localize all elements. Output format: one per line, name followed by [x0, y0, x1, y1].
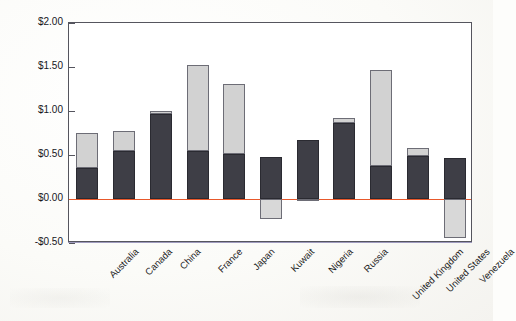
bar-group[interactable] [76, 23, 98, 241]
plot-inner: $2.00$1.50$1.00$0.50$0.00-$0.50 [69, 23, 471, 241]
y-tick-label: $1.00 [38, 104, 63, 115]
bar-segment-tax[interactable] [333, 118, 355, 123]
bar-group[interactable] [260, 23, 282, 241]
bar-segment-base[interactable] [150, 114, 172, 199]
y-tick-label: $0.00 [38, 192, 63, 203]
y-tick-mark [69, 243, 75, 244]
bar-segment-base[interactable] [444, 158, 466, 199]
y-tick-mark [69, 67, 75, 68]
plot-area: $2.00$1.50$1.00$0.50$0.00-$0.50 [68, 22, 472, 242]
bottom-rule [68, 242, 472, 243]
x-axis-label: Japan [251, 246, 277, 272]
bar-group[interactable] [297, 23, 319, 241]
bar-segment-base[interactable] [297, 140, 319, 199]
bar-segment-subsidy[interactable] [260, 199, 282, 219]
y-tick-mark [69, 155, 75, 156]
y-tick-mark [69, 111, 75, 112]
bar-segment-base[interactable] [223, 154, 245, 199]
y-tick-label: $0.50 [38, 148, 63, 159]
bar-group[interactable] [370, 23, 392, 241]
bar-segment-base[interactable] [260, 157, 282, 199]
scan-smudge [300, 286, 420, 308]
bar-group[interactable] [150, 23, 172, 241]
y-tick-label: -$0.50 [35, 236, 63, 247]
bar-segment-base[interactable] [76, 168, 98, 199]
bar-group[interactable] [444, 23, 466, 241]
bar-group[interactable] [407, 23, 429, 241]
bar-group[interactable] [333, 23, 355, 241]
x-axis-label: Australia [107, 246, 141, 280]
bar-segment-base[interactable] [407, 156, 429, 199]
bar-segment-tax[interactable] [113, 131, 135, 151]
bar-segment-tax[interactable] [187, 65, 209, 150]
x-axis-label: France [215, 246, 244, 275]
bar-segment-subsidy[interactable] [297, 199, 319, 201]
bar-segment-tax[interactable] [370, 70, 392, 167]
bar-segment-base[interactable] [333, 123, 355, 199]
y-tick-mark [69, 23, 75, 24]
bar-segment-tax[interactable] [223, 84, 245, 154]
bar-segment-base[interactable] [113, 151, 135, 199]
x-axis-label: Nigeria [326, 246, 355, 275]
bar-segment-subsidy[interactable] [444, 199, 466, 238]
bar-group[interactable] [187, 23, 209, 241]
x-axis-label: China [177, 246, 202, 271]
y-tick-label: $2.00 [38, 16, 63, 27]
bar-segment-tax[interactable] [407, 148, 429, 156]
x-axis-label: Canada [143, 246, 174, 277]
scan-smudge [10, 288, 110, 308]
bar-segment-tax[interactable] [76, 133, 98, 168]
x-axis-label: Kuwait [288, 246, 316, 274]
bar-segment-tax[interactable] [150, 111, 172, 114]
bar-group[interactable] [113, 23, 135, 241]
bar-segment-base[interactable] [187, 151, 209, 199]
x-axis-label: Russia [362, 246, 390, 274]
bar-segment-base[interactable] [370, 166, 392, 199]
y-tick-label: $1.50 [38, 60, 63, 71]
bar-group[interactable] [223, 23, 245, 241]
